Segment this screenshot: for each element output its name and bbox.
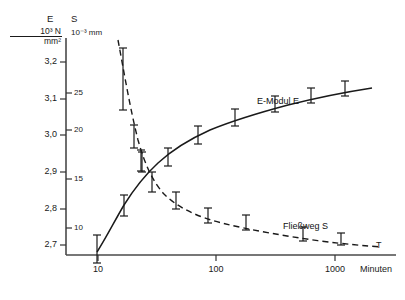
axis-unit-e-denominator: mm² [10,37,62,46]
axis-symbol-e: E [47,13,53,24]
error-bars-e-modul [93,81,349,263]
axis-unit-s: 10⁻³ mm [71,28,102,37]
series-label-e-modul: E-Modul E [257,96,299,106]
y-tick-label-e-4: 2,8 [22,203,57,213]
x-tick-label-1: 100 [196,264,236,274]
y-tick-label-s-2: 15 [74,174,83,183]
y-tick-label-e-5: 2,7 [22,239,57,249]
axis-symbol-s: S [71,13,77,24]
y-tick-label-s-3: 10 [74,223,83,232]
x-tick-label-2: 1000 [315,264,355,274]
chart-figure: E S 10³ N mm² 10⁻³ mm 3,2 3,1 3,0 2,9 2,… [0,0,405,300]
x-axis-ticks [98,255,335,261]
y-axis-ticks-s [66,93,72,228]
y-tick-label-e-0: 3,2 [22,56,57,66]
axis-unit-e: 10³ N mm² [10,27,62,46]
x-axis-unit-label: Minuten [360,264,392,274]
y-tick-label-s-1: 20 [74,125,83,134]
y-tick-label-e-2: 3,0 [22,129,57,139]
series-curve-fliessweg [118,40,382,247]
y-axis-ticks-e [60,62,66,245]
error-bars-fliessweg [119,48,345,245]
x-tick-label-0: 10 [78,264,118,274]
y-tick-label-e-3: 2,9 [22,166,57,176]
series-label-fliessweg: Fließweg S [283,221,328,231]
y-tick-label-e-1: 3,1 [22,93,57,103]
y-tick-label-s-0: 25 [74,88,83,97]
x-axis-symbol: T [376,240,382,250]
